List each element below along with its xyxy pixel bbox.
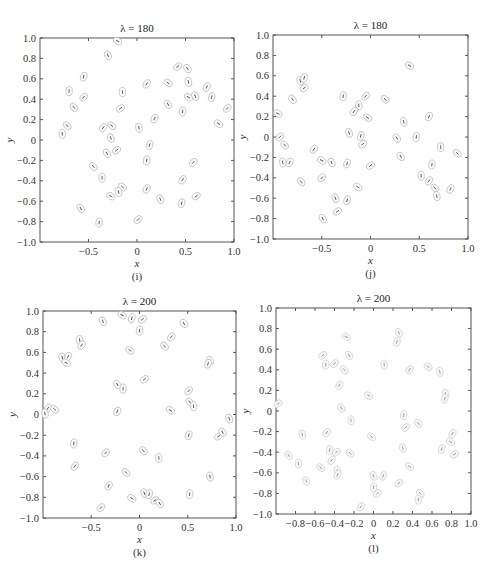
chart-title: λ = 200 [357,292,391,304]
chart-panel-k: λ = 200−1.0−0.8−0.6−0.4−0.200.20.40.60.8… [6,295,243,559]
y-tick-label: 0.4 [23,94,37,105]
y-tick-label: −0.8 [17,216,36,227]
x-tick-label: 1.0 [227,246,240,257]
x-tick-label: 0.2 [386,518,399,529]
y-tick-label: 0.2 [26,388,39,399]
y-tick-label: 0.4 [26,368,40,379]
x-tick-label: −0.5 [79,246,98,257]
data-point [119,87,126,97]
panel-caption: (k) [133,546,146,559]
x-tick-label: 0 [137,522,142,533]
y-tick-label: 0.8 [256,50,269,61]
chart-panel-j: λ = 180−1.0−0.8−0.6−0.4−0.200.20.40.60.8… [236,19,475,280]
chart-title: λ = 180 [120,22,154,34]
y-tick-label: 0.8 [26,326,39,337]
x-axis-label: x [367,254,373,266]
chart-panel-l: λ = 200−1.0−0.8−0.6−0.4−0.200.20.40.60.8… [239,292,478,555]
y-tick-label: 0.8 [23,53,36,64]
y-axis-label: y [236,134,248,140]
y-tick-label: 0.6 [26,347,39,358]
x-tick-label: −0.2 [344,518,363,529]
y-tick-label: 0 [31,135,36,146]
y-tick-label: 0 [264,132,269,143]
y-tick-label: 1.0 [26,306,39,317]
y-tick-label: −0.2 [17,155,36,166]
data-point [59,129,66,139]
x-tick-label: 1.0 [229,522,242,533]
y-tick-label: −1.0 [250,234,269,245]
chart-title: λ = 180 [354,19,388,31]
x-tick-label: −0.4 [325,518,345,529]
scatter-figure: λ = 180−1.0−0.8−0.6−0.4−0.200.20.40.60.8… [0,0,488,563]
y-tick-label: 0.4 [256,91,270,102]
x-tick-label: 0 [134,246,139,257]
y-tick-label: −0.6 [17,196,36,207]
x-tick-label: 0.5 [181,522,194,533]
y-axis-label: y [3,137,15,143]
y-tick-label: −1.0 [17,237,36,248]
x-tick-label: 0 [371,518,376,529]
y-axis-label: y [239,408,251,414]
x-tick-label: 1.0 [461,243,474,254]
y-tick-label: 1.0 [256,30,269,41]
panel-caption: (j) [365,267,376,280]
y-tick-label: −0.8 [20,492,39,503]
chart-panel-i: λ = 180−1.0−0.8−0.6−0.4−0.200.20.40.60.8… [3,22,241,283]
plot-frame [43,311,236,518]
x-tick-label: −0.5 [82,522,101,533]
y-tick-label: −0.6 [253,467,272,478]
x-axis-label: x [370,529,376,541]
y-tick-label: −0.8 [250,213,269,224]
y-tick-label: −0.4 [17,175,37,186]
x-tick-label: 0.6 [425,518,438,529]
y-tick-label: −0.4 [250,172,270,183]
y-tick-label: −0.2 [20,430,39,441]
x-axis-label: x [134,257,140,269]
y-tick-label: 1.0 [259,303,272,314]
data-point [418,171,425,180]
y-tick-label: −1.0 [20,513,39,524]
y-tick-label: 0.2 [23,114,36,125]
y-tick-label: −0.6 [20,471,39,482]
y-tick-label: 0.8 [259,323,272,334]
y-tick-label: −0.8 [253,488,272,499]
x-axis-label: x [136,533,142,545]
x-tick-label: −0.5 [312,243,331,254]
x-tick-label: 0.8 [445,518,458,529]
y-tick-label: 0.6 [23,73,36,84]
chart-title: λ = 200 [123,295,157,307]
y-tick-label: 0.6 [259,344,272,355]
data-point [348,416,355,426]
plot-frame [40,38,234,242]
panel-caption: (l) [368,542,379,555]
data-point [190,401,197,411]
x-tick-label: 0.5 [413,243,426,254]
y-tick-label: 0 [34,409,39,420]
y-tick-label: −0.4 [253,447,273,458]
data-point [437,142,444,152]
y-tick-label: −0.2 [250,152,269,163]
data-point [295,459,302,468]
data-point [381,360,388,370]
x-tick-label: 0 [368,243,373,254]
y-tick-label: −0.6 [250,193,269,204]
x-tick-label: −0.8 [286,518,305,529]
y-tick-label: 0.2 [256,111,269,122]
y-tick-label: 0.6 [256,70,269,81]
y-axis-label: y [6,412,18,418]
y-tick-label: 0 [267,406,272,417]
y-tick-label: −1.0 [253,509,272,520]
plot-frame [273,35,468,239]
y-tick-label: −0.2 [253,426,272,437]
x-tick-label: 0.5 [179,246,192,257]
data-point [155,453,162,462]
data-point [99,173,106,182]
x-tick-label: −0.6 [305,518,324,529]
figure: λ = 180−1.0−0.8−0.6−0.4−0.200.20.40.60.8… [0,0,488,563]
y-tick-label: 0.4 [259,364,273,375]
panel-caption: (i) [132,270,143,283]
data-point [415,495,422,504]
x-tick-label: 1.0 [464,518,477,529]
y-tick-label: 1.0 [23,33,36,44]
x-tick-label: 0.4 [406,518,420,529]
